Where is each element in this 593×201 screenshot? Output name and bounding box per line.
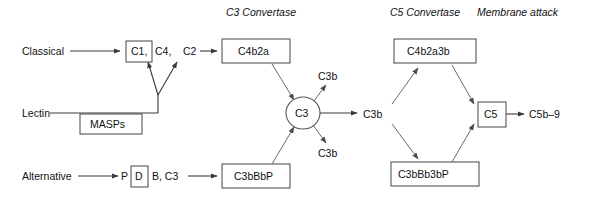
- edge-c3bbb3bp-to-c5: [452, 124, 474, 162]
- node-label-c3: C3: [295, 107, 309, 119]
- node-label-p: P: [121, 170, 128, 182]
- node-label-c3b-lower: C3b: [318, 147, 337, 159]
- edge-c4b2a-to-c3: [272, 64, 294, 100]
- edge-c3-to-c3b-lower: [313, 125, 326, 143]
- header-membrane-attack: Membrane attack: [477, 6, 559, 18]
- node-label-c3b-upper: C3b: [318, 70, 337, 82]
- edge-junction-to-c2: [158, 62, 177, 95]
- edge-c3b-to-c3bbb3bp: [392, 124, 418, 159]
- node-label-d: D: [135, 170, 143, 182]
- header-c5-convertase: C5 Convertase: [390, 6, 460, 18]
- edge-c3b-to-c4b2a3b: [392, 68, 418, 104]
- node-label-masps: MASPs: [90, 118, 125, 130]
- edge-c3bbbp-to-c3: [272, 127, 294, 164]
- node-label-c5: C5: [484, 108, 498, 120]
- pathway-label-alternative: Alternative: [22, 170, 72, 182]
- node-label-b-c3: B, C3: [152, 170, 178, 182]
- diagram-canvas: C3 Convertase C5 Convertase Membrane att…: [0, 0, 593, 201]
- header-c3-convertase: C3 Convertase: [226, 6, 296, 18]
- edge-c4b2a3b-to-c5: [452, 65, 474, 104]
- node-label-c4b2a3b: C4b2a3b: [407, 45, 450, 57]
- node-label-c3bbbp: C3bBbP: [234, 170, 273, 182]
- edge-lectin-to-junction: [50, 95, 158, 113]
- node-label-c4: C4,: [155, 45, 171, 57]
- pathway-label-lectin: Lectin: [22, 107, 50, 119]
- node-label-c2: C2: [183, 45, 197, 57]
- node-label-c3bbb3bp: C3bBb3bP: [398, 168, 449, 180]
- node-label-c1: C1,: [131, 45, 147, 57]
- node-label-c5b9: C5b–9: [529, 108, 560, 120]
- pathway-label-classical: Classical: [22, 45, 64, 57]
- edge-c3-to-c3b-upper: [313, 85, 326, 102]
- node-label-c4b2a: C4b2a: [238, 45, 269, 57]
- edge-junction-to-c4: [148, 62, 158, 95]
- node-label-c3b-middle: C3b: [363, 108, 382, 120]
- complement-pathway-diagram: C3 Convertase C5 Convertase Membrane att…: [0, 0, 593, 201]
